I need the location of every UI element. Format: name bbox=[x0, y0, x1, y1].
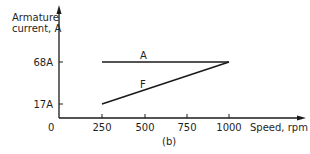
y-axis-label: Armature current, A bbox=[12, 12, 61, 34]
x-axis-label: Speed, rpm bbox=[250, 122, 308, 133]
x-tick-label-1000: 1000 bbox=[214, 122, 244, 133]
y-axis-label-line1: Armature bbox=[12, 12, 61, 23]
y-tick-label-17: 17A bbox=[13, 99, 53, 110]
origin-label: 0 bbox=[48, 122, 54, 133]
series-f-label: F bbox=[140, 79, 146, 90]
y-tick-label-68: 68A bbox=[13, 57, 53, 68]
series-a-label: A bbox=[140, 50, 147, 61]
x-axis-arrow-icon bbox=[297, 116, 306, 121]
y-axis-label-line2: current, A bbox=[12, 23, 61, 34]
series-f-line bbox=[102, 62, 229, 104]
figure-caption: (b) bbox=[162, 136, 176, 147]
x-tick-label-250: 250 bbox=[87, 122, 117, 133]
x-tick-label-500: 500 bbox=[130, 122, 160, 133]
x-tick-label-750: 750 bbox=[172, 122, 202, 133]
